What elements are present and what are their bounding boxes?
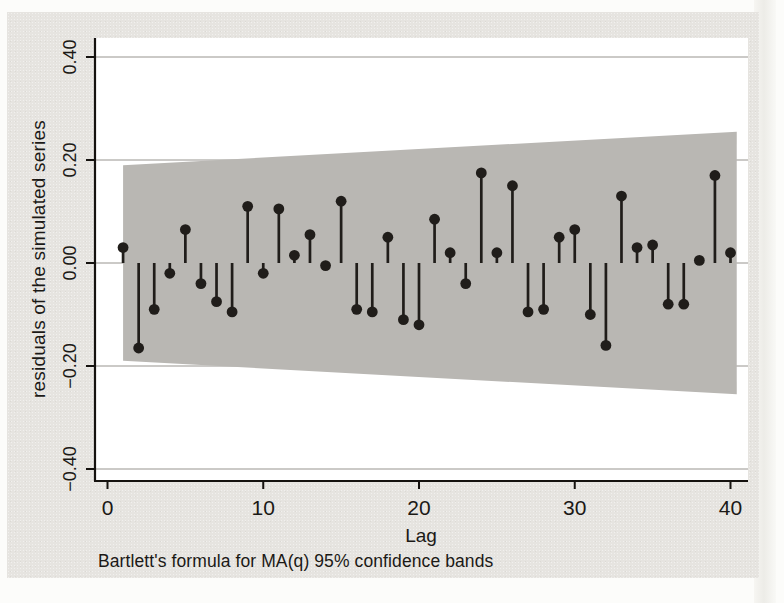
acf-point xyxy=(273,204,284,215)
acf-point xyxy=(569,224,580,235)
autocorrelation-plot xyxy=(0,0,784,603)
y-tick-label: 0.20 xyxy=(60,142,81,177)
acf-point xyxy=(710,170,721,181)
acf-point xyxy=(164,268,175,279)
acf-point xyxy=(398,314,409,325)
acf-point xyxy=(258,268,269,279)
acf-point xyxy=(554,232,565,243)
acf-point xyxy=(351,304,362,315)
acf-point xyxy=(414,319,425,330)
acf-point xyxy=(336,196,347,207)
acf-point xyxy=(476,167,487,178)
acf-point xyxy=(180,224,191,235)
acf-point xyxy=(227,307,238,318)
acf-point xyxy=(118,242,129,253)
x-axis-title: Lag xyxy=(405,525,437,547)
y-tick-label: −0.40 xyxy=(60,446,81,492)
acf-point xyxy=(211,296,222,307)
acf-point xyxy=(601,340,612,351)
acf-point xyxy=(616,191,627,202)
acf-point xyxy=(507,180,518,191)
acf-point xyxy=(320,260,331,271)
x-tick-label: 40 xyxy=(719,496,742,520)
acf-point xyxy=(149,304,160,315)
x-tick-label: 30 xyxy=(563,496,586,520)
acf-point xyxy=(445,247,456,258)
acf-point xyxy=(725,247,736,258)
confidence-band xyxy=(123,132,737,395)
acf-point xyxy=(196,278,207,289)
acf-point xyxy=(632,242,643,253)
acf-point xyxy=(289,250,300,261)
y-tick-label: 0.00 xyxy=(60,245,81,280)
x-tick-label: 0 xyxy=(102,496,114,520)
acf-point xyxy=(523,307,534,318)
acf-point xyxy=(242,201,253,212)
acf-point xyxy=(429,214,440,225)
acf-point xyxy=(694,255,705,266)
x-tick-label: 10 xyxy=(252,496,275,520)
acf-point xyxy=(538,304,549,315)
x-tick-label: 20 xyxy=(407,496,430,520)
acf-point xyxy=(678,299,689,310)
acf-point xyxy=(460,278,471,289)
figure-page: residuals of the simulated series 0.400.… xyxy=(0,0,784,603)
acf-point xyxy=(647,240,658,251)
y-tick-label: −0.20 xyxy=(60,343,81,389)
y-axis-title: residuals of the simulated series xyxy=(28,120,50,398)
figure-caption: Bartlett's formula for MA(q) 95% confide… xyxy=(98,551,493,572)
acf-point xyxy=(305,229,316,240)
acf-point xyxy=(491,247,502,258)
acf-point xyxy=(367,307,378,318)
acf-point xyxy=(585,309,596,320)
y-tick-label: 0.40 xyxy=(60,39,81,74)
acf-point xyxy=(382,232,393,243)
acf-point xyxy=(133,343,144,354)
acf-point xyxy=(663,299,674,310)
